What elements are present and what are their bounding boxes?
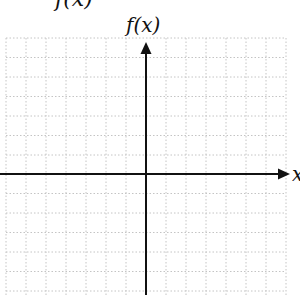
y-axis-label: f(x) (124, 13, 160, 37)
coordinate-plane: f(x) f(x) x (0, 0, 300, 295)
x-axis-label: x (292, 162, 300, 186)
y-axis-arrow-icon (141, 42, 152, 54)
x-axis-arrow-icon (278, 169, 290, 180)
top-cropped-label: f(x) (53, 0, 93, 11)
